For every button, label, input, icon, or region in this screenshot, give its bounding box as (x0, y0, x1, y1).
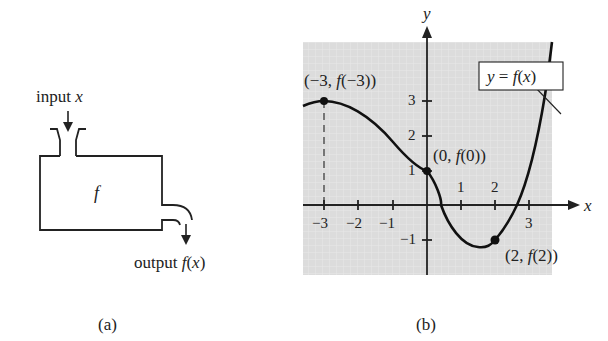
graph-plot (0, 0, 608, 341)
caption-b: (b) (416, 316, 436, 333)
x-axis-label: x (584, 197, 592, 214)
label-point-neg3: (−3, f(−3)) (304, 72, 376, 89)
x-tick-neg3: −3 (312, 216, 328, 231)
y-tick-3: 3 (408, 93, 416, 108)
x-tick-2: 2 (491, 180, 499, 195)
y-tick-1: 1 (408, 163, 416, 178)
y-axis-arrow-icon (422, 26, 432, 38)
label-point-0: (0, f(0)) (433, 147, 486, 164)
label-point-2: (2, f(2)) (505, 247, 558, 264)
x-tick-neg1: −1 (379, 216, 395, 231)
point-2 (491, 236, 500, 245)
x-tick-neg2: −2 (346, 216, 362, 231)
x-tick-1: 1 (457, 180, 465, 195)
y-tick-2: 2 (408, 128, 416, 143)
y-tick-neg1: −1 (400, 232, 416, 247)
point-neg3 (320, 97, 328, 105)
point-0 (423, 167, 431, 175)
curve-callout-label: y = f(x) (487, 68, 536, 85)
y-axis-label: y (423, 5, 431, 22)
x-axis-arrow-icon (568, 200, 580, 210)
x-tick-3: 3 (525, 216, 533, 231)
